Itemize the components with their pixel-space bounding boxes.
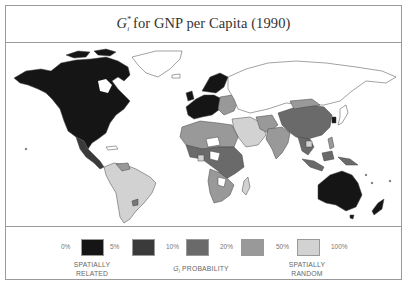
- region-uk: [186, 91, 194, 101]
- region-greenland: [132, 51, 182, 77]
- caption-spatially-related: SPATIALLY RELATED: [66, 261, 118, 278]
- region-india: [266, 127, 290, 159]
- world-map: [6, 43, 401, 227]
- region-australia: [318, 171, 362, 211]
- caption-line: SPATIALLY: [66, 261, 118, 270]
- legend-swatch-5-10: [132, 239, 155, 256]
- region-indonesia: [302, 159, 324, 171]
- legend-tick-10: 10%: [166, 243, 179, 250]
- legend-tick-0: 0%: [61, 243, 70, 250]
- caption-line: SPATIALLY: [281, 261, 333, 270]
- legend-swatch-0-5: [81, 239, 104, 256]
- region-madagascar: [242, 177, 250, 195]
- region-new-zealand: [372, 199, 384, 215]
- title-bar: G*i for GNP per Capita (1990): [6, 6, 401, 43]
- caption-gi-probability: Gi PROBABILITY: [161, 265, 241, 276]
- region-korea: [332, 117, 336, 123]
- caption-line: RANDOM: [281, 270, 333, 279]
- legend: 0% 5% 10% 20% 50% 100% SPATIALLY RELATED…: [6, 227, 401, 281]
- region-scandinavia: [202, 73, 228, 93]
- caption-spatially-random: SPATIALLY RANDOM: [281, 261, 333, 278]
- caption-line: RELATED: [66, 270, 118, 279]
- legend-swatch-20-50: [241, 239, 264, 256]
- legend-tick-5: 5%: [110, 243, 119, 250]
- region-north-america: [14, 57, 130, 149]
- legend-tick-20: 20%: [220, 243, 233, 250]
- figure-title: G*i for GNP per Capita (1990): [117, 15, 291, 33]
- region-japan: [338, 105, 348, 125]
- legend-tick-50: 50%: [276, 243, 289, 250]
- legend-swatch-50-100: [297, 239, 320, 256]
- title-text: for GNP per Capita (1990): [129, 15, 290, 31]
- world-map-svg: [6, 43, 401, 226]
- legend-tick-100: 100%: [331, 243, 348, 250]
- region-south-america: [104, 163, 156, 223]
- title-symbol: G: [117, 15, 128, 31]
- legend-swatch-10-20: [186, 239, 209, 256]
- caption-text: PROBABILITY: [180, 265, 229, 272]
- figure-frame: G*i for GNP per Capita (1990): [5, 5, 402, 280]
